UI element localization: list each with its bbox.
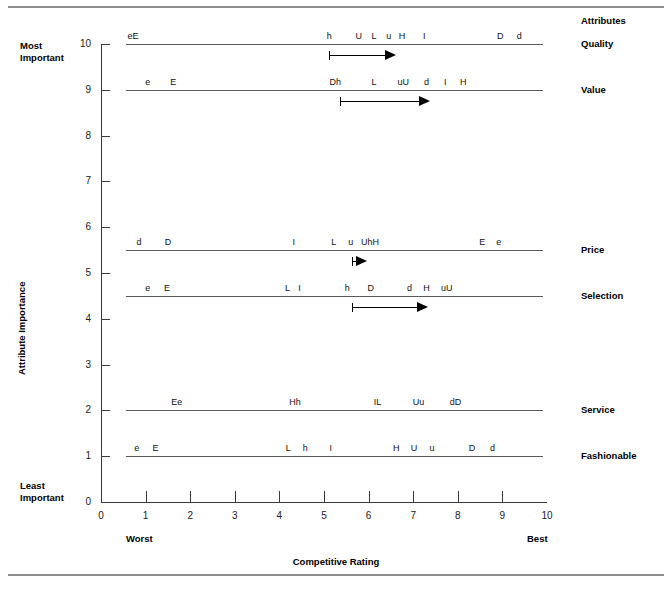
rating-mark: H — [423, 283, 430, 293]
rating-mark: L — [331, 237, 336, 247]
rating-mark: d — [490, 443, 495, 453]
y-axis-tick-label: 5 — [69, 267, 91, 278]
x-axis-tick-label: 1 — [136, 510, 156, 521]
y-axis-tick-label: 10 — [69, 38, 91, 49]
rating-mark: d — [136, 237, 141, 247]
rating-mark: Ee — [171, 397, 182, 407]
rating-mark: I — [444, 77, 447, 87]
rating-mark: H — [399, 31, 406, 41]
arrow-head-icon — [385, 50, 396, 60]
y-axis-low-label: Least Important — [20, 480, 64, 504]
rating-mark: eE — [128, 31, 139, 41]
y-axis-title: Attribute Importance — [16, 282, 27, 375]
x-axis-tick-label: 10 — [537, 510, 557, 521]
rating-mark: u — [429, 443, 434, 453]
y-axis-tick-label: 3 — [69, 359, 91, 370]
rating-mark: IL — [374, 397, 382, 407]
x-axis-tick — [235, 491, 236, 502]
top-divider-rule — [8, 6, 664, 8]
x-axis-worst-label: Worst — [126, 533, 153, 545]
rating-mark: dD — [450, 397, 462, 407]
y-axis-tick-label: 7 — [69, 175, 91, 186]
rating-mark: I — [298, 283, 301, 293]
arrow-head-icon — [417, 302, 428, 312]
y-axis-tick-label: 8 — [69, 130, 91, 141]
rating-mark: e — [496, 237, 501, 247]
y-axis-tick-label: 9 — [69, 84, 91, 95]
bottom-divider-rule — [8, 574, 664, 576]
y-axis-tick — [101, 410, 110, 411]
x-axis-tick — [279, 491, 280, 502]
arrow-shaft — [340, 101, 420, 102]
rating-mark: H — [460, 77, 467, 87]
x-axis-tick — [413, 491, 414, 502]
rating-mark: L — [371, 31, 376, 41]
arrow-head-icon — [419, 96, 430, 106]
attribute-row-line — [126, 44, 543, 45]
attributes-header: Attributes — [581, 15, 626, 26]
x-axis-tick — [190, 491, 191, 502]
x-axis-best-label: Best — [527, 533, 548, 545]
y-axis-tick — [101, 136, 110, 137]
rating-mark: e — [134, 443, 139, 453]
y-axis-tick-label: 0 — [69, 496, 91, 507]
arrow-head-icon — [356, 256, 367, 266]
y-axis-tick — [101, 227, 110, 228]
y-axis-tick — [101, 181, 110, 182]
y-axis-tick — [101, 44, 110, 45]
rating-mark: U — [356, 31, 363, 41]
rating-mark: E — [164, 283, 170, 293]
y-axis-high-label: Most Important — [20, 40, 64, 64]
rating-mark: e — [145, 77, 150, 87]
chart-canvas: 012345678910012345678910 Most Important … — [0, 0, 672, 601]
attribute-row-line — [126, 296, 543, 297]
y-axis-tick-label: 6 — [69, 221, 91, 232]
rating-mark: D — [165, 237, 172, 247]
rating-mark: L — [371, 77, 376, 87]
rating-mark: L — [285, 283, 290, 293]
x-axis-tick-label: 5 — [314, 510, 334, 521]
rating-mark: D — [469, 443, 476, 453]
x-axis-tick — [324, 491, 325, 502]
rating-mark: uU — [441, 283, 453, 293]
rating-mark: E — [152, 443, 158, 453]
attribute-row-label-price: Price — [581, 244, 604, 255]
y-axis-tick — [101, 319, 110, 320]
rating-mark: Hh — [289, 397, 301, 407]
x-axis-tick — [369, 491, 370, 502]
rating-mark: Uu — [413, 397, 425, 407]
y-axis-tick — [101, 90, 110, 91]
x-axis-tick-label: 6 — [359, 510, 379, 521]
x-axis-tick-label: 4 — [269, 510, 289, 521]
x-axis-tick-label: 3 — [225, 510, 245, 521]
x-axis-tick-label: 7 — [403, 510, 423, 521]
x-axis-tick-label: 0 — [91, 510, 111, 521]
arrow-shaft — [329, 55, 386, 56]
rating-mark: I — [292, 237, 295, 247]
attribute-row-label-selection: Selection — [581, 290, 623, 301]
attribute-row-line — [126, 456, 543, 457]
rating-mark: h — [345, 283, 350, 293]
x-axis-tick-label: 9 — [492, 510, 512, 521]
rating-mark: H — [393, 443, 400, 453]
rating-mark: h — [327, 31, 332, 41]
x-axis-tick-label: 8 — [448, 510, 468, 521]
y-axis-tick-label: 4 — [69, 313, 91, 324]
x-axis-line — [101, 502, 547, 503]
rating-mark: d — [517, 31, 522, 41]
attribute-row-label-fashionable: Fashionable — [581, 450, 636, 461]
attribute-row-line — [126, 250, 543, 251]
attribute-row-line — [126, 90, 543, 91]
rating-mark: I — [423, 31, 426, 41]
attribute-row-label-value: Value — [581, 84, 606, 95]
x-axis-tick — [146, 491, 147, 502]
y-axis-tick-label: 2 — [69, 404, 91, 415]
rating-mark: D — [368, 283, 375, 293]
x-axis-tick — [458, 491, 459, 502]
rating-mark: UhH — [361, 237, 379, 247]
rating-mark: h — [303, 443, 308, 453]
y-axis-tick-label: 1 — [69, 450, 91, 461]
rating-mark: u — [348, 237, 353, 247]
x-axis-tick — [502, 491, 503, 502]
attribute-row-line — [126, 410, 543, 411]
